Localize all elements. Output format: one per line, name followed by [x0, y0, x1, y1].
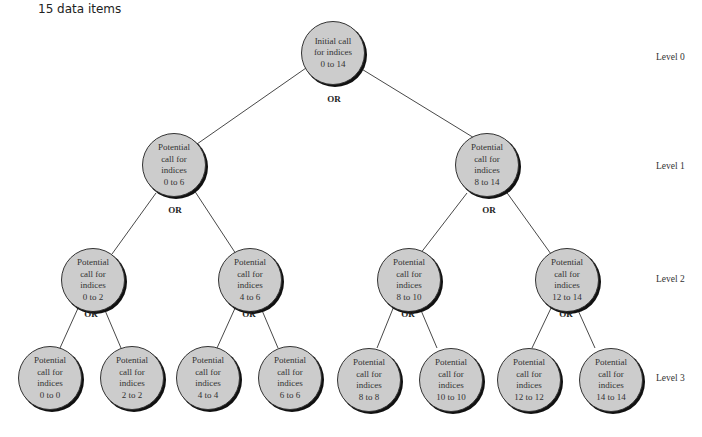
node-text: call for: [37, 367, 63, 379]
node-text: indices: [277, 378, 303, 390]
node-text: indices: [554, 280, 580, 292]
node-text: indices: [598, 380, 624, 392]
node-text: Potential: [116, 355, 148, 367]
node-text: Potential: [595, 357, 627, 369]
node-text: call for: [474, 154, 500, 166]
node-text: 12 to 12: [514, 392, 544, 404]
node-text: call for: [598, 369, 624, 381]
node-14-to-14: Potential call for indices 14 to 14: [579, 348, 643, 412]
or-label: OR: [482, 205, 496, 215]
node-0-to-0: Potential call for indices 0 to 0: [18, 346, 82, 410]
node-text: 12 to 14: [552, 292, 582, 304]
node-6-to-6: Potential call for indices 6 to 6: [258, 346, 322, 410]
node-text: call for: [195, 367, 221, 379]
or-label: OR: [84, 309, 98, 319]
node-text: indices: [474, 165, 500, 177]
level-1-label: Level 1: [656, 161, 685, 171]
node-text: indices: [237, 280, 263, 292]
node-text: Potential: [34, 355, 66, 367]
node-text: Potential: [77, 257, 109, 269]
node-text: Potential: [234, 257, 266, 269]
node-text: 10 to 10: [436, 392, 466, 404]
node-text: 0 to 6: [164, 177, 185, 189]
or-label: OR: [168, 205, 182, 215]
node-text: Initial call: [315, 36, 352, 48]
node-text: Potential: [471, 142, 503, 154]
node-text: call for: [80, 269, 106, 281]
node-text: indices: [195, 378, 221, 390]
node-text: call for: [277, 367, 303, 379]
node-root: Initial call for indices 0 to 14: [301, 21, 365, 85]
node-0-to-2: Potential call for indices 0 to 2: [61, 248, 125, 312]
level-3-label: Level 3: [656, 373, 685, 383]
node-text: 8 to 8: [359, 392, 380, 404]
or-label: OR: [401, 309, 415, 319]
node-text: for indices: [314, 47, 352, 59]
node-text: 8 to 14: [474, 177, 499, 189]
node-text: Potential: [353, 357, 385, 369]
level-0-label: Level 0: [656, 52, 685, 62]
or-label: OR: [242, 309, 256, 319]
node-0-to-6: Potential call for indices 0 to 6: [142, 133, 206, 197]
or-label: OR: [327, 94, 341, 104]
level-2-label: Level 2: [656, 274, 685, 284]
node-text: indices: [80, 280, 106, 292]
node-text: 6 to 6: [280, 390, 301, 402]
node-text: call for: [516, 369, 542, 381]
node-text: 0 to 14: [320, 59, 345, 71]
node-text: indices: [438, 380, 464, 392]
node-2-to-2: Potential call for indices 2 to 2: [100, 346, 164, 410]
or-label: OR: [559, 309, 573, 319]
node-4-to-6: Potential call for indices 4 to 6: [218, 248, 282, 312]
node-text: 14 to 14: [596, 392, 626, 404]
node-text: 0 to 0: [40, 390, 61, 402]
node-text: call for: [438, 369, 464, 381]
node-text: call for: [161, 154, 187, 166]
node-text: Potential: [158, 142, 190, 154]
node-text: call for: [119, 367, 145, 379]
node-text: 4 to 6: [240, 292, 261, 304]
node-text: 4 to 4: [198, 390, 219, 402]
node-text: 8 to 10: [396, 292, 421, 304]
node-text: indices: [37, 378, 63, 390]
node-text: indices: [516, 380, 542, 392]
node-text: indices: [396, 280, 422, 292]
node-text: Potential: [551, 257, 583, 269]
node-8-to-10: Potential call for indices 8 to 10: [377, 248, 441, 312]
node-text: indices: [161, 165, 187, 177]
node-text: indices: [119, 378, 145, 390]
node-text: 2 to 2: [122, 390, 143, 402]
node-4-to-4: Potential call for indices 4 to 4: [176, 346, 240, 410]
node-text: Potential: [274, 355, 306, 367]
node-text: indices: [356, 380, 382, 392]
node-12-to-14: Potential call for indices 12 to 14: [535, 248, 599, 312]
node-text: call for: [554, 269, 580, 281]
node-text: Potential: [393, 257, 425, 269]
node-text: Potential: [192, 355, 224, 367]
node-8-to-14: Potential call for indices 8 to 14: [455, 133, 519, 197]
node-10-to-10: Potential call for indices 10 to 10: [419, 348, 483, 412]
node-text: 0 to 2: [83, 292, 104, 304]
node-text: Potential: [513, 357, 545, 369]
node-text: call for: [396, 269, 422, 281]
node-text: call for: [356, 369, 382, 381]
node-12-to-12: Potential call for indices 12 to 12: [497, 348, 561, 412]
node-text: call for: [237, 269, 263, 281]
node-text: Potential: [435, 357, 467, 369]
node-8-to-8: Potential call for indices 8 to 8: [337, 348, 401, 412]
